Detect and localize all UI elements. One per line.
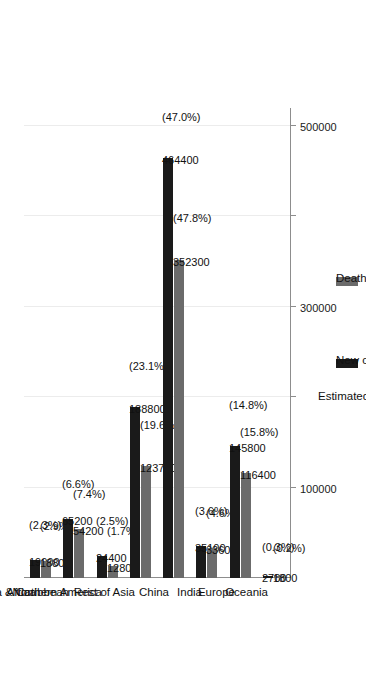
gridline bbox=[24, 125, 290, 126]
axis-tick bbox=[290, 396, 296, 397]
value-axis-title: Estimated number of cases/deaths bbox=[318, 390, 366, 402]
axis-tick bbox=[290, 487, 296, 488]
bar-value-label: 464400 bbox=[162, 154, 199, 166]
bar-percent-label: (7.4%) bbox=[73, 488, 105, 500]
bar-percent-label: (0.2%) bbox=[273, 542, 305, 554]
bar-value-label: 116400 bbox=[240, 469, 276, 481]
bar-new-cases bbox=[130, 407, 140, 578]
bar-deaths bbox=[241, 473, 251, 578]
category-label: China bbox=[139, 586, 169, 598]
category-label: Oceania bbox=[226, 586, 269, 598]
bar-new-cases bbox=[230, 446, 240, 578]
value-axis-line bbox=[290, 108, 291, 578]
bar-value-label: 352300 bbox=[173, 256, 210, 268]
gridline bbox=[24, 306, 290, 307]
chart-page: 100000300000500000 19900(2.3%)18800(2.9%… bbox=[0, 0, 366, 686]
bar-percent-label: (47.8%) bbox=[173, 212, 212, 224]
bar-percent-label: (23.1%) bbox=[129, 360, 168, 372]
axis-tick-label: 500000 bbox=[300, 121, 337, 133]
bar-deaths bbox=[174, 260, 184, 578]
category-label: Rest of Asia bbox=[74, 586, 135, 598]
legend-label: Deaths bbox=[336, 272, 366, 284]
bar-value-label: 1800 bbox=[273, 572, 297, 584]
legend-label: New cases bbox=[336, 354, 366, 366]
bar-deaths bbox=[141, 466, 151, 578]
bar-new-cases bbox=[63, 519, 73, 578]
bar-value-label: 188800 bbox=[129, 403, 166, 415]
bar-percent-label: (47.0%) bbox=[162, 111, 201, 123]
axis-tick bbox=[290, 215, 296, 216]
bar-new-cases bbox=[163, 158, 173, 578]
axis-tick-label: 300000 bbox=[300, 302, 337, 314]
axis-tick bbox=[290, 306, 296, 307]
axis-tick-label: 100000 bbox=[300, 483, 337, 495]
gridline bbox=[24, 215, 290, 216]
bar-percent-label: (14.8%) bbox=[229, 399, 268, 411]
bar-value-label: 145800 bbox=[229, 442, 266, 454]
gridline bbox=[24, 396, 290, 397]
axis-tick bbox=[290, 125, 296, 126]
bar-chart-figure: 100000300000500000 19900(2.3%)18800(2.9%… bbox=[0, 0, 366, 686]
bar-percent-label: (15.8%) bbox=[240, 426, 279, 438]
